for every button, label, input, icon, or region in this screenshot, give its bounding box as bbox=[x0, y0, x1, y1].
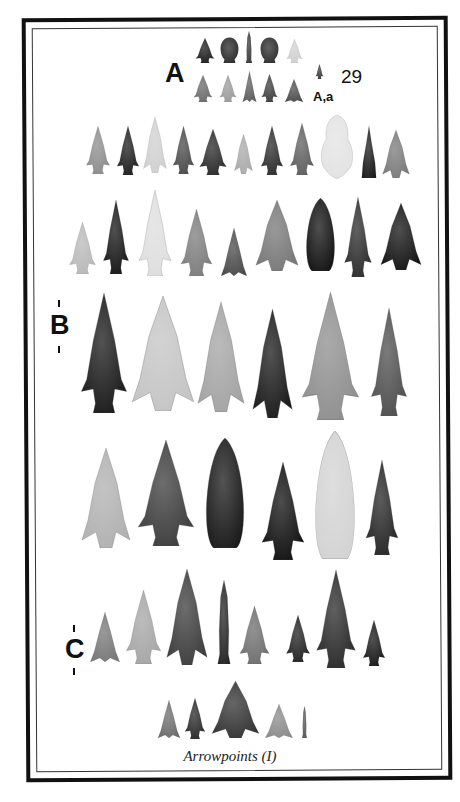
arrowpoint bbox=[359, 126, 379, 178]
arrowpoint bbox=[171, 126, 196, 174]
arrowpoint bbox=[361, 620, 387, 666]
group-label-c: C bbox=[65, 634, 85, 665]
arrowpoint bbox=[237, 606, 272, 664]
arrowpoint bbox=[81, 448, 131, 548]
arrowpoint bbox=[219, 37, 240, 63]
arrowpoint-silhouette-icon bbox=[368, 308, 410, 416]
arrowpoint bbox=[133, 440, 199, 546]
arrowpoint bbox=[166, 569, 208, 665]
group-c-tick-bottom bbox=[73, 668, 75, 675]
arrowpoint bbox=[89, 612, 121, 662]
arrowpoint-silhouette-icon bbox=[212, 580, 236, 664]
arrowpoint-silhouette-icon bbox=[285, 39, 304, 63]
arrowpoint bbox=[259, 37, 280, 63]
arrowpoint bbox=[264, 704, 294, 738]
arrowpoint bbox=[315, 64, 324, 79]
arrowpoint-silhouette-icon bbox=[143, 117, 167, 173]
arrowpoint bbox=[123, 590, 164, 664]
group-label-a: A bbox=[165, 58, 185, 89]
arrowpoint bbox=[260, 74, 279, 102]
arrowpoint-silhouette-icon bbox=[304, 198, 337, 271]
group-c-tick-top bbox=[73, 625, 75, 632]
arrowpoint bbox=[288, 123, 316, 175]
arrowpoint-silhouette-icon bbox=[178, 209, 215, 276]
arrowpoint bbox=[380, 203, 422, 270]
group-b-tick-top bbox=[58, 300, 60, 307]
arrowpoint-silhouette-icon bbox=[252, 309, 293, 418]
arrowpoint bbox=[218, 75, 238, 102]
arrowpoint-silhouette-icon bbox=[197, 302, 245, 412]
arrowpoint bbox=[342, 197, 374, 277]
arrowpoint-silhouette-icon bbox=[363, 460, 401, 555]
arrowpoint bbox=[284, 615, 312, 662]
arrowpoint-silhouette-icon bbox=[123, 590, 164, 664]
arrowpoint-silhouette-icon bbox=[89, 612, 121, 662]
arrowpoint-silhouette-icon bbox=[242, 71, 257, 102]
arrowpoint-silhouette-icon bbox=[284, 79, 304, 102]
arrowpoint-silhouette-icon bbox=[258, 462, 308, 560]
arrowpoint-silhouette-icon bbox=[297, 292, 364, 420]
arrowpoint-silhouette-icon bbox=[218, 75, 238, 102]
group-label-a-sub: A,a bbox=[313, 89, 333, 104]
arrowpoint-silhouette-icon bbox=[300, 706, 309, 738]
arrowpoint bbox=[67, 222, 98, 274]
arrowpoint-silhouette-icon bbox=[234, 134, 253, 174]
arrowpoint bbox=[194, 38, 216, 63]
arrowpoint bbox=[312, 431, 358, 559]
arrowpoint-silhouette-icon bbox=[342, 197, 374, 277]
arrowpoint bbox=[192, 75, 214, 102]
arrowpoint-silhouette-icon bbox=[136, 190, 174, 276]
arrowpoint bbox=[300, 706, 309, 738]
arrowpoint-silhouette-icon bbox=[171, 126, 196, 174]
arrowpoint bbox=[319, 115, 355, 179]
arrowpoint bbox=[157, 700, 181, 738]
group-label-b: B bbox=[50, 310, 70, 341]
arrowpoint bbox=[77, 293, 131, 413]
arrowpoint bbox=[131, 296, 195, 411]
arrowpoint bbox=[203, 438, 247, 548]
arrowpoint-plate bbox=[0, 0, 460, 802]
arrowpoint-silhouette-icon bbox=[260, 74, 279, 102]
arrowpoint-silhouette-icon bbox=[319, 115, 355, 179]
arrowpoint-silhouette-icon bbox=[315, 64, 324, 79]
arrowpoint-silhouette-icon bbox=[259, 126, 285, 175]
plate-number: 29 bbox=[341, 66, 362, 88]
arrowpoint bbox=[243, 31, 255, 63]
arrowpoint-silhouette-icon bbox=[361, 620, 387, 666]
arrowpoint-silhouette-icon bbox=[183, 698, 207, 739]
arrowpoint bbox=[115, 126, 141, 175]
arrowpoint bbox=[143, 117, 167, 173]
arrowpoint bbox=[211, 681, 260, 738]
arrowpoint bbox=[259, 126, 285, 175]
plate-caption: Arrowpoints (I) bbox=[0, 748, 460, 765]
arrowpoint-silhouette-icon bbox=[194, 38, 216, 63]
arrowpoint-silhouette-icon bbox=[115, 126, 141, 175]
arrowpoint bbox=[297, 292, 364, 420]
arrowpoint bbox=[234, 134, 253, 174]
group-b-tick-bottom bbox=[58, 346, 60, 353]
arrowpoint bbox=[304, 198, 337, 271]
arrowpoint-silhouette-icon bbox=[192, 75, 214, 102]
arrowpoint-silhouette-icon bbox=[359, 126, 379, 178]
arrowpoint-silhouette-icon bbox=[259, 37, 280, 63]
arrowpoint-silhouette-icon bbox=[313, 570, 359, 668]
arrowpoint bbox=[242, 71, 257, 102]
arrowpoint-silhouette-icon bbox=[81, 448, 131, 548]
arrowpoint-silhouette-icon bbox=[255, 200, 299, 271]
arrowpoint bbox=[285, 39, 304, 63]
arrowpoint-silhouette-icon bbox=[101, 200, 131, 274]
arrowpoint bbox=[136, 190, 174, 276]
arrowpoint-silhouette-icon bbox=[67, 222, 98, 274]
arrowpoint bbox=[368, 308, 410, 416]
arrowpoint bbox=[178, 209, 215, 276]
arrowpoint-silhouette-icon bbox=[211, 681, 260, 738]
arrowpoint bbox=[313, 570, 359, 668]
arrowpoint-silhouette-icon bbox=[382, 130, 410, 178]
arrowpoint bbox=[252, 309, 293, 418]
arrowpoint bbox=[382, 130, 410, 178]
arrowpoint-silhouette-icon bbox=[197, 129, 229, 175]
arrowpoint-silhouette-icon bbox=[131, 296, 195, 411]
arrowpoint-silhouette-icon bbox=[243, 31, 255, 63]
arrowpoint bbox=[84, 126, 112, 174]
arrowpoint bbox=[212, 580, 236, 664]
